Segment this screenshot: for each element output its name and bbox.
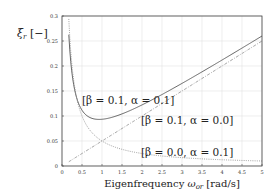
x-tick-label: 2 (140, 169, 143, 175)
x-tick-label: 0.5 (78, 169, 86, 175)
x-tick-label: 1.5 (118, 169, 126, 175)
y-tick-label: 0.15 (47, 88, 58, 94)
y-axis-label: ξr [−] (17, 27, 48, 41)
x-tick-label: 0 (60, 169, 63, 175)
y-tick-label: 0.2 (50, 63, 58, 69)
x-tick-label: 3.5 (198, 169, 206, 175)
x-tick-label: 1 (100, 169, 103, 175)
x-tick-label: 4 (220, 169, 223, 175)
y-tick-label: 0.05 (47, 138, 58, 144)
grid-lines (62, 16, 262, 166)
x-axis-label: Eigenfrequency ωor [rad/s] (104, 178, 240, 191)
annotation-beta01-alpha01: [β = 0.1, α = 0.1] (82, 94, 174, 106)
x-tick-label: 2.5 (158, 169, 166, 175)
annotation-beta01-alpha00: [β = 0.1, α = 0.0] (141, 114, 233, 126)
x-tick-label: 4.5 (238, 169, 246, 175)
damping-ratio-chart: 00.511.522.533.544.55 00.050.10.150.20.2… (0, 0, 278, 194)
series-line-dotted (69, 19, 262, 161)
series-line-solid (69, 35, 262, 120)
y-tick-label: 0 (55, 163, 58, 169)
series-group (69, 19, 262, 162)
y-tick-label: 0.3 (50, 13, 58, 19)
y-tick-labels: 00.050.10.150.20.250.3 (47, 13, 58, 169)
x-tick-labels: 00.511.522.533.544.55 (60, 169, 263, 175)
x-tick-label: 5 (260, 169, 263, 175)
x-tick-label: 3 (180, 169, 183, 175)
y-tick-label: 0.1 (50, 113, 58, 119)
annotation-beta00-alpha01: [β = 0.0, α = 0.1] (141, 146, 233, 158)
y-tick-label: 0.25 (47, 38, 58, 44)
